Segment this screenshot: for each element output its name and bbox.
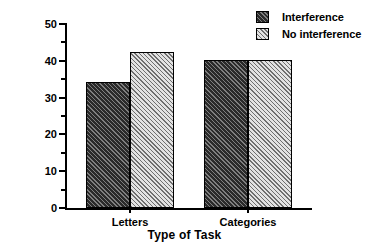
y-tick-label-40: 40	[45, 56, 57, 67]
y-tick-minor-35	[61, 78, 65, 80]
x-tick-label-categories: Categories	[220, 216, 277, 228]
y-tick-label-0: 0	[51, 203, 57, 214]
legend-label-interference: Interference	[282, 11, 344, 23]
y-tick-label-30: 30	[45, 93, 57, 104]
y-tick-50	[59, 23, 65, 25]
bar-chart-figure: Interference No interference Words Gener…	[0, 0, 369, 251]
bar-letters-interference	[86, 82, 130, 208]
y-tick-minor-25	[61, 115, 65, 117]
y-tick-label-10: 10	[45, 166, 57, 177]
legend-swatch-interference	[256, 11, 269, 23]
y-tick-minor-15	[61, 152, 65, 154]
y-tick-minor-5	[61, 189, 65, 191]
y-tick-10	[59, 170, 65, 172]
y-axis-line	[65, 23, 67, 209]
y-tick-40	[59, 60, 65, 62]
plot-area: 50 40 30 20 10 0 Letters Categories	[66, 24, 311, 208]
y-tick-20	[59, 133, 65, 135]
y-tick-0	[59, 207, 65, 209]
legend-item-interference: Interference	[256, 8, 368, 25]
x-axis-title: Type of Task	[0, 228, 369, 242]
bar-letters-no-interference	[130, 52, 174, 208]
x-tick-label-letters: Letters	[112, 216, 149, 228]
bar-categories-no-interference	[248, 60, 292, 208]
y-tick-30	[59, 97, 65, 99]
x-tick-letters	[129, 208, 131, 213]
bar-categories-interference	[204, 60, 248, 208]
x-axis-line	[65, 208, 312, 210]
x-tick-categories	[247, 208, 249, 213]
y-tick-label-20: 20	[45, 129, 57, 140]
y-tick-minor-45	[61, 41, 65, 43]
y-tick-label-50: 50	[45, 19, 57, 30]
